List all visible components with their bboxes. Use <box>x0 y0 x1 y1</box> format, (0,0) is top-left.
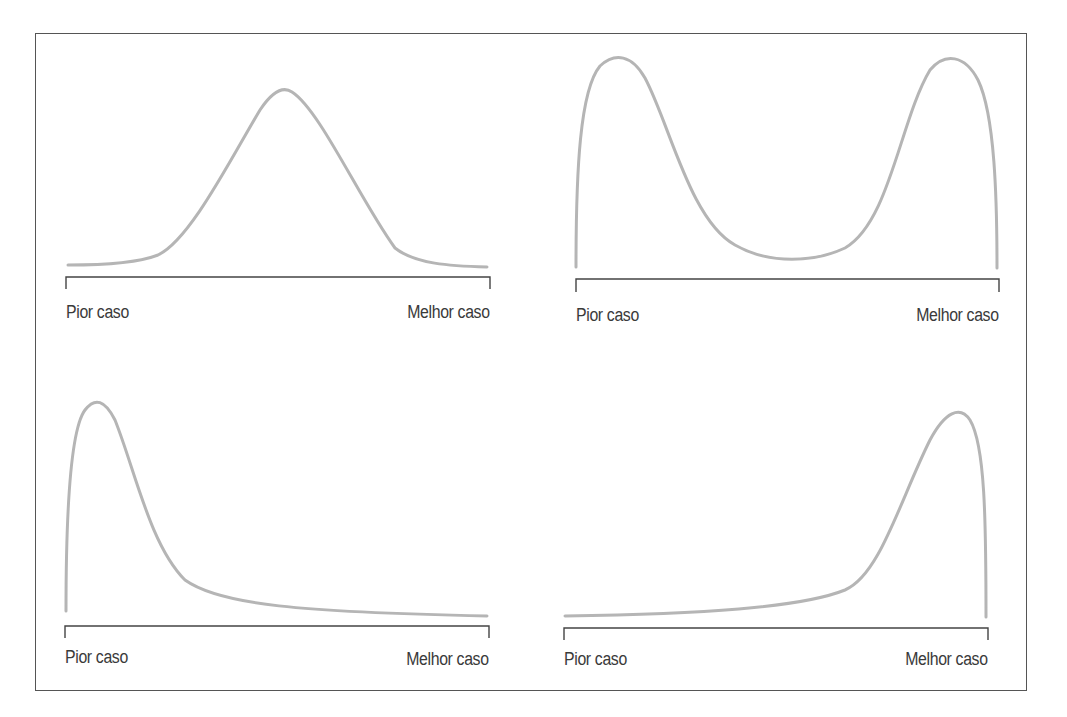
label-worst-case-left-skewed: Pior caso <box>564 649 627 670</box>
label-worst-case-right-skewed: Pior caso <box>65 647 128 668</box>
curve-normal <box>68 90 487 267</box>
curve-bimodal <box>576 58 997 268</box>
curve-left-skewed <box>565 412 986 617</box>
axis-bracket-bimodal <box>576 279 999 292</box>
axis-bracket-left-skewed <box>564 628 988 640</box>
label-worst-case-bimodal: Pior caso <box>576 305 639 326</box>
label-best-case-right-skewed: Melhor caso <box>407 649 489 670</box>
axis-bracket-right-skewed <box>65 626 489 638</box>
label-best-case-left-skewed: Melhor caso <box>906 649 988 670</box>
distribution-plots <box>0 0 1067 717</box>
label-best-case-bimodal: Melhor caso <box>917 305 999 326</box>
axis-bracket-normal <box>66 277 490 289</box>
label-worst-case-normal: Pior caso <box>66 302 129 323</box>
label-best-case-normal: Melhor caso <box>408 302 490 323</box>
curve-right-skewed <box>66 402 487 616</box>
